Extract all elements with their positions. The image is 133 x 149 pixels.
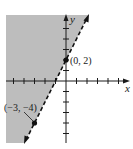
inequality-graph: (0, 2) (−3, −4) y x	[0, 0, 133, 149]
point-label-0-2: (0, 2)	[70, 55, 92, 67]
point-0-2	[63, 57, 68, 62]
y-axis-label: y	[69, 13, 75, 25]
point-label-neg3-neg4: (−3, −4)	[4, 102, 37, 114]
x-axis-label: x	[124, 82, 130, 94]
line-arrow-bottom-icon	[24, 136, 30, 145]
